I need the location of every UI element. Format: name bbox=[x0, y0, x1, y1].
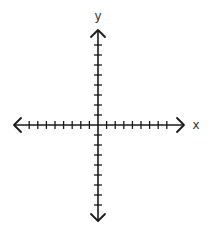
x-axis-label: x bbox=[192, 118, 199, 132]
coordinate-plane: y x bbox=[0, 0, 209, 230]
y-axis-label: y bbox=[94, 9, 101, 23]
